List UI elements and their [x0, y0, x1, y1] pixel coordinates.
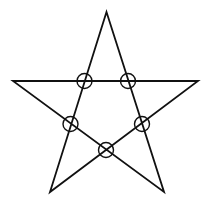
pentagram-figure	[0, 0, 212, 204]
pentagram-diagram	[0, 0, 212, 204]
pentagram-star-outline	[13, 12, 198, 192]
intersection-markers	[63, 74, 150, 158]
